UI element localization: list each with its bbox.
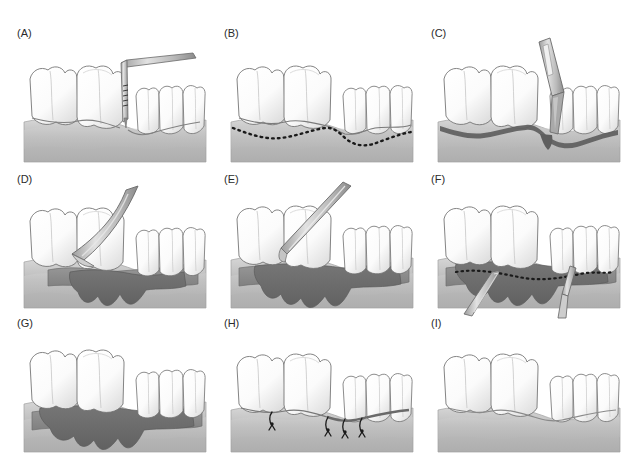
panel-illustration-h <box>215 312 428 456</box>
panel-h: (H) <box>215 312 428 456</box>
panel-d: (D) <box>8 168 221 320</box>
panel-illustration-b <box>215 22 428 174</box>
panel-e: (E) <box>215 168 428 320</box>
figure-container: (A) <box>0 0 639 456</box>
panel-illustration-c <box>422 22 635 174</box>
panel-c: (C) <box>422 22 635 174</box>
panel-b: (B) <box>215 22 428 174</box>
panel-illustration-g <box>8 312 221 456</box>
panel-illustration-f <box>422 168 635 320</box>
panel-illustration-i <box>422 312 635 456</box>
panel-i: (I) <box>422 312 635 456</box>
panel-a: (A) <box>8 22 221 174</box>
panel-illustration-a <box>8 22 221 174</box>
panel-g: (G) <box>8 312 221 456</box>
panel-f: (F) <box>422 168 635 320</box>
panel-illustration-e <box>215 168 428 320</box>
panel-illustration-d <box>8 168 221 320</box>
